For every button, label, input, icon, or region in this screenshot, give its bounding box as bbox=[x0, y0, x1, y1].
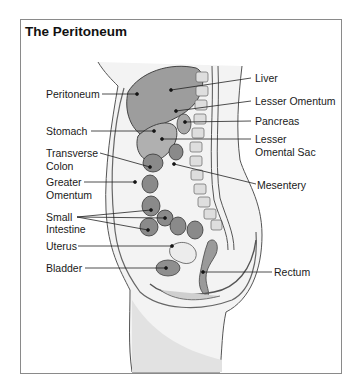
label-stomach: Stomach bbox=[46, 125, 87, 138]
label-small-intestine-line1: Small bbox=[46, 211, 72, 224]
label-uterus: Uterus bbox=[46, 240, 77, 253]
label-lesser-omentum: Lesser Omentum bbox=[255, 95, 336, 108]
label-liver: Liver bbox=[255, 72, 278, 85]
label-transverse-colon-line1: Transverse bbox=[46, 147, 98, 160]
label-peritoneum: Peritoneum bbox=[46, 88, 100, 101]
label-small-intestine-line2: Intestine bbox=[46, 223, 86, 236]
label-mesentery: Mesentery bbox=[257, 179, 306, 192]
pancreas-shape bbox=[177, 114, 191, 134]
label-greater-omentum-line2: Omentum bbox=[46, 189, 92, 202]
label-transverse-colon-line2: Colon bbox=[46, 160, 73, 173]
label-bladder: Bladder bbox=[46, 262, 82, 275]
label-greater-omentum-line1: Greater bbox=[46, 176, 82, 189]
label-rectum: Rectum bbox=[274, 266, 310, 279]
label-lesser-omental-sac-line1: Lesser bbox=[255, 133, 287, 146]
label-pancreas: Pancreas bbox=[255, 115, 299, 128]
label-lesser-omental-sac-line2: Omental Sac bbox=[255, 146, 316, 159]
